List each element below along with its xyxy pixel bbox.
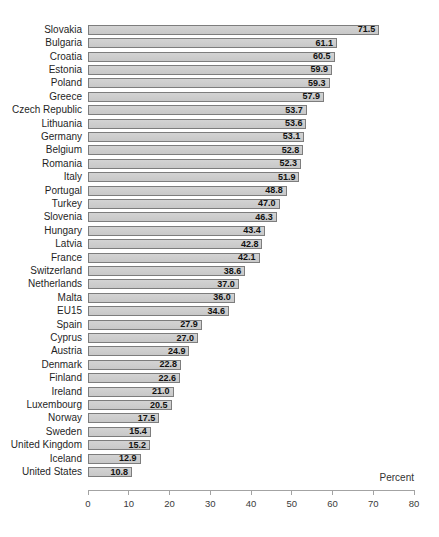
- x-axis-title: Percent: [88, 472, 414, 483]
- bar: 27.0: [88, 333, 198, 343]
- bar: 48.8: [88, 186, 287, 196]
- chart-row: EU1534.6: [0, 305, 414, 318]
- bar: 20.5: [88, 400, 172, 410]
- x-axis-tick-mark: [291, 490, 292, 495]
- x-axis-tick-mark: [169, 490, 170, 495]
- bar: 34.6: [88, 306, 229, 316]
- x-axis-tick-mark: [210, 490, 211, 495]
- bar: 53.7: [88, 105, 307, 115]
- chart-row: Belgium52.8: [0, 144, 414, 157]
- bar: 53.6: [88, 119, 306, 129]
- chart-row: Slovakia71.5: [0, 23, 414, 36]
- bar: 22.8: [88, 360, 181, 370]
- country-label: Denmark: [0, 360, 88, 370]
- chart-row: Poland59.3: [0, 77, 414, 90]
- value-label: 47.0: [258, 199, 276, 208]
- country-label: Czech Republic: [0, 105, 88, 115]
- country-label: Finland: [0, 373, 88, 383]
- value-label: 38.6: [224, 267, 242, 276]
- chart-row: Luxembourg20.5: [0, 398, 414, 411]
- value-label: 27.9: [180, 320, 198, 329]
- bar: 17.5: [88, 413, 159, 423]
- bar: 51.9: [88, 172, 299, 182]
- value-label: 42.8: [241, 240, 259, 249]
- bar: 27.9: [88, 320, 202, 330]
- bar: 43.4: [88, 226, 265, 236]
- value-label: 22.8: [159, 360, 177, 369]
- x-axis-tick-label: 0: [85, 499, 90, 509]
- chart-row: Hungary43.4: [0, 224, 414, 237]
- value-label: 71.5: [358, 25, 376, 34]
- chart-row: Malta36.0: [0, 291, 414, 304]
- chart-row: Turkey47.0: [0, 197, 414, 210]
- value-label: 20.5: [150, 401, 168, 410]
- country-label: Hungary: [0, 226, 88, 236]
- country-label: Turkey: [0, 199, 88, 209]
- bar: 15.4: [88, 427, 151, 437]
- bar: 57.9: [88, 92, 324, 102]
- chart-row: Slovenia46.3: [0, 211, 414, 224]
- country-label: Switzerland: [0, 266, 88, 276]
- chart-row: Latvia42.8: [0, 238, 414, 251]
- chart-row: United Kingdom15.2: [0, 439, 414, 452]
- country-label: Germany: [0, 132, 88, 142]
- chart-row: Lithuania53.6: [0, 117, 414, 130]
- x-axis-tick-label: 10: [123, 499, 134, 509]
- chart-row: Romania52.3: [0, 157, 414, 170]
- bar: 61.1: [88, 38, 337, 48]
- value-label: 61.1: [315, 39, 333, 48]
- chart-row: Cyprus27.0: [0, 331, 414, 344]
- x-axis-tick-label: 20: [164, 499, 175, 509]
- country-label: Poland: [0, 78, 88, 88]
- x-axis-tick-label: 80: [409, 499, 420, 509]
- chart-row: Switzerland38.6: [0, 264, 414, 277]
- country-label: Luxembourg: [0, 400, 88, 410]
- bar: 37.0: [88, 279, 239, 289]
- value-label: 59.9: [311, 65, 329, 74]
- bar: 52.3: [88, 159, 301, 169]
- value-label: 27.0: [176, 334, 194, 343]
- value-label: 36.0: [213, 293, 231, 302]
- x-axis-tick-label: 40: [246, 499, 257, 509]
- x-axis-tick-label: 50: [286, 499, 297, 509]
- chart-row: Italy51.9: [0, 170, 414, 183]
- bar: 42.1: [88, 253, 260, 263]
- bar: 59.9: [88, 65, 332, 75]
- chart-row: Finland22.6: [0, 372, 414, 385]
- country-label: Malta: [0, 293, 88, 303]
- x-axis-tick-label: 30: [205, 499, 216, 509]
- chart-row: Greece57.9: [0, 90, 414, 103]
- chart-row: Croatia60.5: [0, 50, 414, 63]
- value-label: 37.0: [217, 280, 235, 289]
- chart-row: Netherlands37.0: [0, 278, 414, 291]
- value-label: 42.1: [238, 253, 256, 262]
- value-label: 59.3: [308, 79, 326, 88]
- country-label: Iceland: [0, 454, 88, 464]
- chart-row: Ireland21.0: [0, 385, 414, 398]
- x-axis-tick-label: 60: [327, 499, 338, 509]
- country-label: Netherlands: [0, 279, 88, 289]
- chart-row: Germany53.1: [0, 130, 414, 143]
- chart-row: Estonia59.9: [0, 63, 414, 76]
- chart-row: Portugal48.8: [0, 184, 414, 197]
- country-label: Bulgaria: [0, 38, 88, 48]
- chart-row: Bulgaria61.1: [0, 36, 414, 49]
- value-label: 43.4: [243, 226, 261, 235]
- bar: 36.0: [88, 293, 235, 303]
- bar: 71.5: [88, 25, 379, 35]
- country-label: Italy: [0, 172, 88, 182]
- country-label: Sweden: [0, 427, 88, 437]
- value-label: 48.8: [265, 186, 283, 195]
- value-label: 17.5: [138, 414, 156, 423]
- chart-row: Sweden15.4: [0, 425, 414, 438]
- country-label: Cyprus: [0, 333, 88, 343]
- bar: 59.3: [88, 78, 330, 88]
- country-label: Slovakia: [0, 25, 88, 35]
- value-label: 53.1: [283, 132, 301, 141]
- value-label: 53.6: [285, 119, 303, 128]
- bar: 12.9: [88, 454, 141, 464]
- x-axis-tick-mark: [88, 490, 89, 495]
- value-label: 22.6: [159, 374, 177, 383]
- chart-row: Denmark22.8: [0, 358, 414, 371]
- country-label: Austria: [0, 346, 88, 356]
